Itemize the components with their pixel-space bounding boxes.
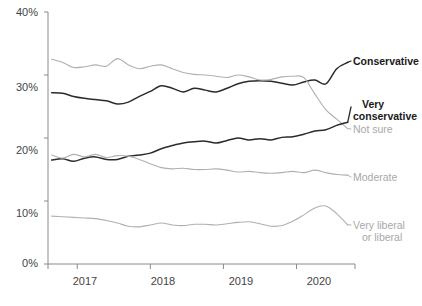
series-line-not-sure — [52, 59, 348, 129]
leader-lines-group — [348, 61, 351, 225]
leader-line — [348, 175, 351, 177]
series-line-conservative — [52, 62, 348, 104]
axis-group — [44, 12, 355, 269]
line-chart-plot — [0, 0, 422, 306]
x-tick-label-2020: 2020 — [289, 276, 349, 287]
y-tick-label-40: 40% — [0, 7, 38, 18]
y-tick-label-0: 0% — [0, 258, 38, 269]
series-label-moderate: Moderate — [353, 172, 397, 184]
series-label-not-sure: Not sure — [353, 124, 393, 136]
y-tick-label-20: 20% — [0, 145, 38, 156]
chart-container: 40% 30% 20% 10% 0% 2017 2018 2019 2020 C… — [0, 0, 422, 306]
series-label-very-conservative-line2: conservative — [353, 111, 417, 123]
series-line-very-liberal-or-liberal — [52, 206, 348, 227]
series-label-very-liberal-line2: or liberal — [362, 232, 402, 244]
series-label-very-conservative-line1: Very — [362, 99, 384, 111]
series-line-very-conservative — [52, 122, 348, 161]
series-label-conservative: Conservative — [353, 56, 419, 68]
x-tick-label-2018: 2018 — [133, 276, 193, 287]
series-group — [52, 59, 348, 227]
x-tick-label-2017: 2017 — [55, 276, 115, 287]
series-label-very-liberal-line1: Very liberal — [353, 220, 405, 232]
leader-line — [348, 61, 351, 62]
y-tick-label-30: 30% — [0, 82, 38, 93]
x-tick-label-2019: 2019 — [211, 276, 271, 287]
leader-line — [348, 107, 351, 122]
y-tick-label-10: 10% — [0, 208, 38, 219]
